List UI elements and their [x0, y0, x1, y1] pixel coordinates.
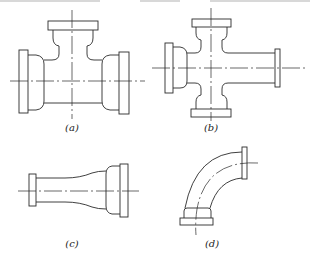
panel-label-c: (c)	[65, 238, 79, 249]
right-hub	[102, 55, 119, 110]
top-flange	[192, 19, 231, 27]
top-hub	[44, 30, 102, 60]
cutoff-text-remnant	[0, 0, 310, 2]
top-hub	[187, 27, 275, 53]
pipe-fittings-figure: (a) (b) (c)	[0, 0, 311, 261]
top-flange	[48, 21, 98, 30]
left-hub	[173, 47, 187, 88]
left-flange	[19, 50, 28, 113]
panel-b-cross	[152, 8, 305, 121]
panel-c-reducer	[18, 164, 139, 217]
bottom-hub	[187, 83, 275, 109]
right-flange	[120, 164, 128, 217]
bend-centerline	[196, 163, 258, 235]
right-flange	[119, 52, 129, 114]
tapered-body	[36, 171, 106, 209]
panel-label-b: (b)	[204, 122, 218, 133]
inner-arc	[210, 178, 242, 208]
bottom-hub	[184, 208, 211, 218]
left-flange	[29, 174, 36, 206]
left-hub	[28, 55, 44, 110]
right-hub	[106, 166, 120, 214]
panel-label-a: (a)	[65, 122, 79, 133]
bottom-flange	[180, 218, 213, 225]
panel-label-d: (d)	[205, 238, 219, 249]
panel-d-bend	[180, 147, 258, 235]
panel-a-tee	[10, 10, 145, 119]
